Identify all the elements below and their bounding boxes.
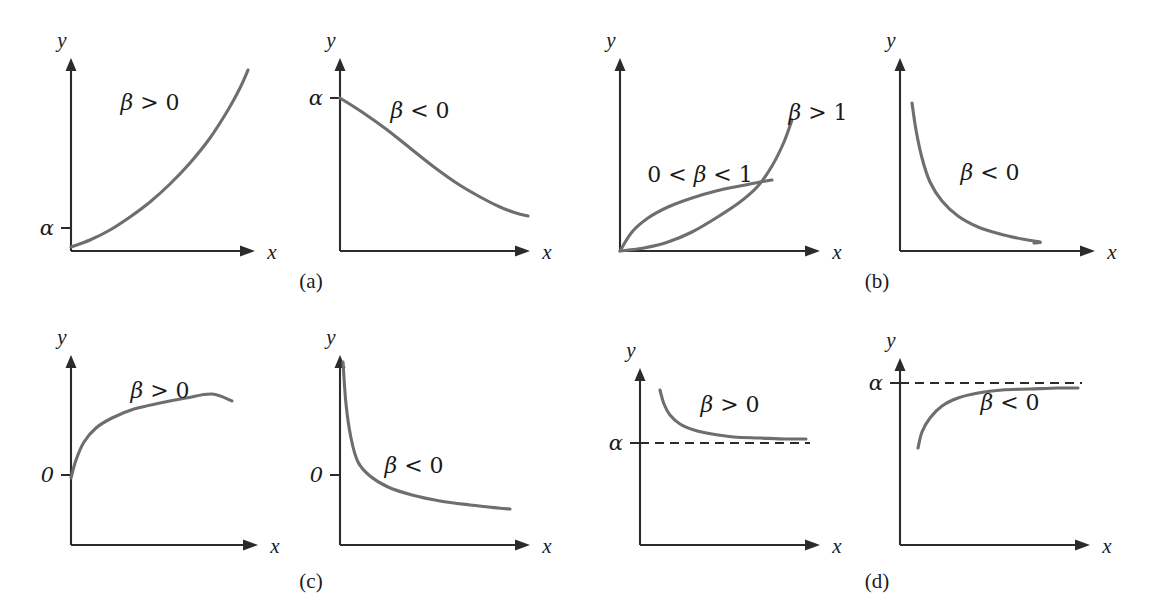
panel-1-condition-label-0: β > 0 [119,90,179,115]
panel-2-y-axis-arrowhead [335,58,346,71]
panels-layer: yxαβ > 0yxαβ < 0yx0 < β < 1β > 1yxβ < 0y… [40,28,1118,558]
panel-5-y-axis-label: y [55,325,67,349]
panel-2-x-axis-label: x [541,240,552,264]
caption-a: (a) [299,269,322,293]
panel-5-x-axis-label: x [269,534,280,558]
caption-c: (c) [299,569,322,593]
panel-6-condition-label-0: β < 0 [383,453,443,478]
panel-5-condition-label-0: β > 0 [129,378,189,403]
panel-1-x-axis-arrowhead [240,246,255,257]
panel-7-y-axis-label: y [624,338,636,362]
figure-container: yxαβ > 0yxαβ < 0yx0 < β < 1β > 1yxβ < 0y… [0,0,1173,610]
panel-2-y-tick-label-0: α [309,86,323,110]
multi-panel-figure: yxαβ > 0yxαβ < 0yx0 < β < 1β > 1yxβ < 0y… [0,0,1173,610]
panel-3-x-axis-label: x [831,240,842,264]
panel-3-y-axis-arrowhead [615,58,626,71]
panel-1-y-axis-arrowhead [66,58,77,71]
panel-7-condition-label-0: β > 0 [699,392,759,417]
panel-1-y-axis-label: y [55,28,67,52]
panel-4: yxβ < 0 [884,28,1117,264]
panel-8-x-axis-label: x [1101,534,1112,558]
panel-4-y-axis-arrowhead [895,58,906,71]
panel-6-curve-0 [343,362,510,509]
panel-3-y-axis-label: y [604,28,616,52]
panel-6-y-axis-label: y [324,325,336,349]
panel-1-x-axis-label: x [266,240,277,264]
panel-4-x-axis-arrowhead [1080,246,1095,257]
panel-7-y-axis-arrowhead [635,368,646,381]
panel-7-x-axis-arrowhead [805,540,820,551]
panel-7: yxαβ > 0 [609,338,843,558]
panel-5-x-axis-arrowhead [243,540,258,551]
panel-5-y-axis-arrowhead [66,355,77,368]
panel-6-x-axis-arrowhead [515,540,530,551]
panel-5-curve-0 [71,394,232,478]
caption-d: (d) [865,569,890,593]
panel-3-curve-0 [620,180,772,251]
panel-2-x-axis-arrowhead [515,246,530,257]
panel-3-condition-label-1: β > 1 [787,100,847,125]
panel-8: yxαβ < 0 [869,328,1113,558]
panel-1: yxαβ > 0 [40,28,278,264]
panel-8-x-axis-arrowhead [1075,540,1090,551]
panel-6-y-tick-label-0: 0 [310,463,323,487]
panel-6-x-axis-label: x [541,534,552,558]
panel-6: yx0β < 0 [310,325,553,558]
panel-2-y-axis-label: y [324,28,336,52]
panel-1-y-tick-label-0: α [40,216,54,240]
panel-3-condition-label-0: 0 < β < 1 [647,162,753,187]
caption-b: (b) [865,269,890,293]
panel-2-condition-label-0: β < 0 [389,98,449,123]
panel-3-x-axis-arrowhead [805,246,820,257]
panel-7-x-axis-label: x [831,534,842,558]
panel-2: yxαβ < 0 [309,28,553,264]
panel-8-y-tick-label-0: α [869,371,883,395]
panel-5-y-tick-label-0: 0 [41,463,54,487]
panel-4-y-axis-label: y [884,28,896,52]
panel-7-y-tick-label-0: α [609,431,623,455]
panel-4-x-axis-label: x [1106,240,1117,264]
panel-3: yx0 < β < 1β > 1 [604,28,847,264]
panel-4-condition-label-0: β < 0 [959,160,1019,185]
panel-8-condition-label-0: β < 0 [979,390,1039,415]
panel-8-y-axis-label: y [884,328,896,352]
panel-8-y-axis-arrowhead [895,358,906,371]
panel-5: yx0β > 0 [41,325,281,558]
